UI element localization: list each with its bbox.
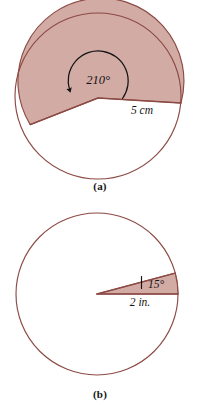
angle-label-b: 15°	[148, 278, 165, 290]
figure-b: 15° 2 in.	[16, 213, 178, 375]
radius-label-a: 5 cm	[131, 104, 153, 116]
figure-board: 210° 5 cm 15° 2 in.	[0, 0, 200, 412]
figure-b-caption: (b)	[0, 388, 200, 400]
sector-a-shaded-region	[18, 0, 184, 125]
figure-a: 210° 5 cm	[15, 0, 184, 179]
radius-label-b: 2 in.	[130, 296, 150, 308]
angle-label-a: 210°	[86, 73, 110, 87]
figure-a-caption: (a)	[0, 180, 200, 192]
